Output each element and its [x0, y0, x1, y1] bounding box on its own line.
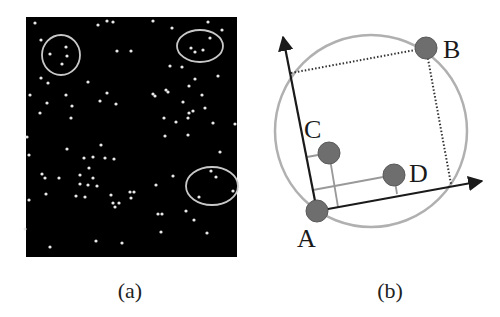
- star-dot: [206, 20, 209, 23]
- star-dot: [70, 104, 73, 107]
- star-dot: [203, 106, 206, 109]
- star-dot: [40, 172, 43, 175]
- star-dot: [91, 176, 94, 179]
- star-dot: [111, 20, 114, 23]
- star-dot: [120, 241, 123, 244]
- star-dot: [65, 54, 68, 57]
- star-dot: [28, 93, 31, 96]
- star-dot: [209, 169, 212, 172]
- panel-b-geometry-diagram: ABCD: [275, 35, 482, 253]
- star-dot: [205, 231, 208, 234]
- star-dot: [82, 156, 85, 159]
- star-field-background: [26, 17, 237, 257]
- star-dot: [74, 194, 77, 197]
- star-dot: [166, 90, 169, 93]
- star-dot: [109, 193, 112, 196]
- star-dot: [113, 205, 116, 208]
- star-dot: [103, 156, 106, 159]
- star-dot: [187, 111, 190, 114]
- star-dot: [187, 84, 190, 87]
- star-dot: [91, 155, 94, 158]
- star-dot: [163, 134, 166, 137]
- star-dot: [83, 195, 86, 198]
- star-dot: [186, 133, 189, 136]
- point-a-label: A: [297, 224, 316, 253]
- star-dot: [27, 153, 30, 156]
- point-c-label: C: [304, 115, 321, 144]
- star-dot: [78, 173, 81, 176]
- star-dot: [114, 102, 117, 105]
- star-dot: [25, 135, 28, 138]
- star-dot: [45, 101, 48, 104]
- star-dot: [60, 62, 63, 65]
- dotted-edge: [426, 48, 451, 184]
- star-dot: [87, 166, 90, 169]
- star-dot: [43, 176, 46, 179]
- star-dot: [201, 48, 204, 51]
- star-dot: [33, 21, 36, 24]
- star-dot: [180, 65, 183, 68]
- star-dot: [44, 192, 47, 195]
- star-dot: [94, 239, 97, 242]
- star-dot: [86, 183, 89, 186]
- star-dot: [193, 77, 196, 80]
- star-dot: [220, 28, 223, 31]
- figure-canvas: (a) ABCD (b): [0, 0, 500, 317]
- star-dot: [46, 81, 49, 84]
- star-dot: [159, 230, 162, 233]
- star-dot: [218, 150, 221, 153]
- star-dot: [39, 76, 42, 79]
- star-dot: [78, 182, 81, 185]
- panel-b-caption: (b): [377, 278, 403, 303]
- star-dot: [96, 23, 99, 26]
- star-dot: [153, 94, 156, 97]
- star-dot: [69, 116, 72, 119]
- star-dot: [171, 174, 174, 177]
- star-dot: [111, 201, 114, 204]
- point-d-marker: [383, 164, 405, 186]
- star-dot: [233, 122, 236, 125]
- star-dot: [181, 100, 184, 103]
- dotted-edge: [291, 48, 426, 73]
- star-dot: [184, 209, 187, 212]
- star-dot: [86, 80, 89, 83]
- star-dot: [23, 227, 26, 230]
- labeled-points: ABCD: [297, 35, 460, 253]
- star-dot: [168, 64, 171, 67]
- star-dot: [65, 147, 68, 150]
- star-dot: [231, 189, 234, 192]
- point-d-label: D: [409, 159, 428, 188]
- point-b-label: B: [443, 35, 460, 64]
- star-dot: [216, 74, 219, 77]
- star-dot: [38, 111, 41, 114]
- star-dot: [200, 93, 203, 96]
- star-dot: [117, 201, 120, 204]
- star-dot: [48, 52, 51, 55]
- star-dot: [197, 195, 200, 198]
- panel-a-star-field: [23, 17, 238, 257]
- star-dot: [129, 196, 132, 199]
- star-dot: [193, 50, 196, 53]
- panel-a-caption: (a): [118, 278, 142, 303]
- star-dot: [27, 198, 30, 201]
- star-dot: [57, 176, 60, 179]
- star-dot: [192, 218, 195, 221]
- star-dot: [98, 99, 101, 102]
- star-dot: [151, 19, 154, 22]
- star-dot: [64, 93, 67, 96]
- star-dot: [156, 212, 159, 215]
- star-dot: [99, 143, 102, 146]
- star-dot: [128, 190, 131, 193]
- star-dot: [48, 245, 51, 248]
- point-b-marker: [415, 37, 437, 59]
- star-dot: [105, 91, 108, 94]
- star-dot: [95, 184, 98, 187]
- star-dot: [186, 116, 189, 119]
- star-dot: [64, 45, 67, 48]
- projection-line: [313, 175, 394, 190]
- star-dot: [105, 19, 108, 22]
- star-dot: [115, 49, 118, 52]
- star-dot: [170, 26, 173, 29]
- star-dot: [189, 46, 192, 49]
- star-dot: [208, 36, 211, 39]
